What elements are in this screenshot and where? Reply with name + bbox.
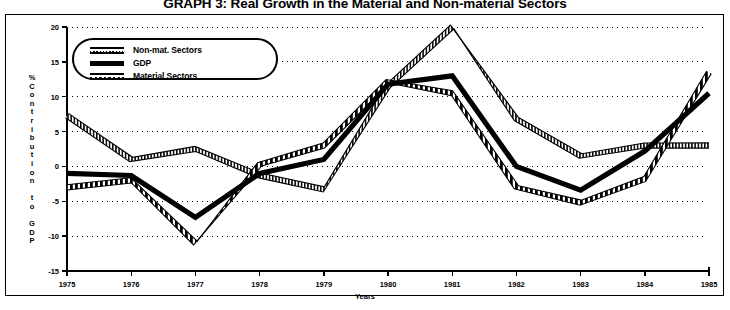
y-tick-label: 15 <box>51 58 59 67</box>
chart-root: GRAPH 3: Real Growth in the Material and… <box>0 0 730 310</box>
x-tick-label: 1980 <box>380 280 397 289</box>
y-tick-label: 20 <box>51 23 59 32</box>
series-material-sectors-fill <box>67 71 712 245</box>
legend-label-gdp: GDP <box>133 58 151 68</box>
x-tick-label: 1976 <box>123 280 140 289</box>
y-tick-label: 10 <box>51 93 59 102</box>
x-tick-label: 1981 <box>444 280 461 289</box>
legend-swatch-icon-non-mat-sectors <box>90 47 124 54</box>
y-tick-label: -15 <box>48 267 59 276</box>
y-tick-label: -5 <box>52 197 59 206</box>
x-tick-label: 1982 <box>508 280 525 289</box>
x-tick-label: 1977 <box>187 280 204 289</box>
chart-legend: Non-mat. Sectors GDP Material Sectors <box>72 38 278 80</box>
series-material-sectors-edge-bottom <box>67 74 711 245</box>
x-tick-label: 1979 <box>315 280 332 289</box>
legend-swatch-icon-gdp <box>90 61 124 66</box>
legend-label-material-sectors: Material Sectors <box>133 71 197 81</box>
legend-swatch-icon-material-sectors <box>90 73 124 80</box>
x-tick-label: 1984 <box>636 280 654 289</box>
x-tick-label: 1975 <box>59 280 76 289</box>
x-tick-label: 1978 <box>251 280 268 289</box>
y-tick-label: 5 <box>55 128 59 137</box>
legend-item-gdp: GDP <box>90 57 276 69</box>
y-tick-label: 0 <box>55 162 59 171</box>
legend-item-non-mat-sectors: Non-mat. Sectors <box>90 44 276 56</box>
y-tick-label: -10 <box>48 232 59 241</box>
x-tick-label: 1985 <box>701 280 718 289</box>
legend-item-material-sectors: Material Sectors <box>90 70 276 82</box>
x-tick-label: 1983 <box>572 280 589 289</box>
legend-label-non-mat-sectors: Non-mat. Sectors <box>133 45 202 55</box>
